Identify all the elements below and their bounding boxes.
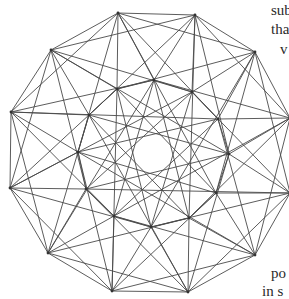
- graph-edge: [255, 52, 289, 193]
- graph-vertex: [228, 153, 231, 156]
- graph-edge: [117, 89, 151, 227]
- graph-vertex: [85, 188, 88, 191]
- cropped-body-text-line: sub: [271, 1, 289, 20]
- graph-edge: [11, 13, 118, 112]
- graph-edge: [118, 13, 195, 15]
- graph-edge: [86, 92, 192, 189]
- graph-edge: [154, 80, 189, 218]
- graph-edge: [218, 119, 255, 255]
- graph-vertex: [9, 187, 12, 190]
- graph-edge: [229, 154, 289, 193]
- graph-vertex: [153, 79, 156, 82]
- graph-edge: [10, 188, 86, 189]
- graph-edge: [117, 13, 118, 89]
- graph-edge: [218, 118, 289, 119]
- graph-vertex: [217, 118, 220, 121]
- graph-edge: [255, 193, 289, 255]
- graph-edge: [151, 52, 255, 227]
- graph-edge: [11, 112, 218, 119]
- graph-vertex: [191, 91, 194, 94]
- graph-edge: [48, 218, 189, 253]
- graph-edge: [189, 118, 289, 218]
- graph-vertex: [50, 49, 53, 52]
- cropped-body-text-line: v: [280, 40, 288, 59]
- graph-vertex: [113, 215, 116, 218]
- graph-edge: [118, 13, 255, 52]
- graph-vertex: [10, 111, 13, 114]
- graph-edge: [48, 216, 114, 253]
- graph-edge: [188, 154, 229, 292]
- graph-edge: [89, 115, 229, 154]
- graph-edge: [86, 189, 188, 292]
- graph-edge: [51, 15, 195, 50]
- graph-vertex: [111, 290, 114, 293]
- graph-vertex: [117, 12, 120, 15]
- graph-edge: [78, 152, 112, 291]
- graph-vertex: [254, 51, 257, 54]
- graph-edge: [112, 193, 216, 291]
- graph-edge: [114, 118, 289, 216]
- graph-edges: [10, 13, 289, 292]
- graph-vertex: [187, 291, 190, 294]
- graph-edge: [195, 15, 255, 52]
- graph-vertex: [254, 254, 257, 257]
- cropped-body-text-line: tha: [271, 20, 289, 39]
- graph-edge: [112, 255, 255, 291]
- cropped-body-text-line: in s: [262, 282, 283, 299]
- graph-edge: [48, 80, 154, 253]
- graph-edge: [10, 112, 11, 188]
- graph-vertex: [47, 252, 50, 255]
- graph-vertex: [88, 114, 91, 117]
- graph-edge: [89, 89, 117, 115]
- graph-edge: [51, 50, 86, 189]
- graph-vertex: [77, 151, 80, 154]
- graph-vertex: [215, 192, 218, 195]
- graph-edge: [112, 227, 151, 291]
- star-graph-figure: [0, 0, 289, 299]
- graph-edge: [188, 255, 255, 292]
- graph-edge: [48, 253, 188, 292]
- graph-edge: [189, 15, 195, 218]
- graph-vertex: [150, 226, 153, 229]
- graph-edge: [10, 50, 51, 188]
- graph-edge: [78, 152, 216, 193]
- graph-vertex: [116, 88, 119, 91]
- graph-vertex: [188, 217, 191, 220]
- cropped-body-text-line: po: [271, 264, 286, 283]
- graph-edge: [10, 188, 112, 291]
- graph-edge: [117, 80, 154, 89]
- graph-edge: [112, 291, 188, 292]
- graph-edge: [188, 218, 189, 292]
- graph-edge: [86, 189, 289, 193]
- graph-vertex: [194, 14, 197, 17]
- graph-edge: [195, 15, 229, 154]
